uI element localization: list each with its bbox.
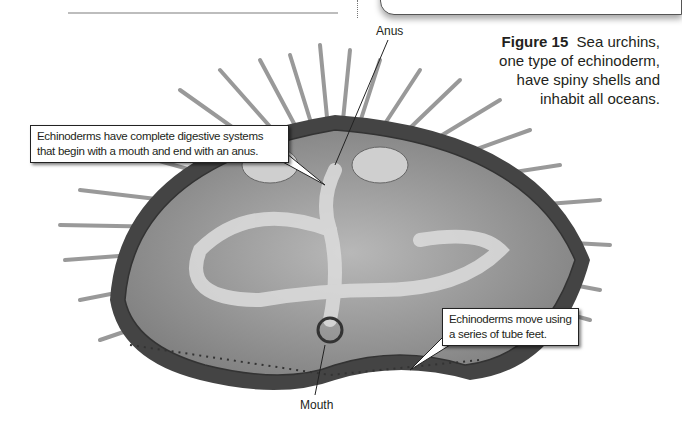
callout-digestive-system: Echinoderms have complete digestive syst…	[30, 125, 289, 163]
anus-label: Anus	[376, 24, 403, 38]
callout-tube-feet: Echinoderms move using a series of tube …	[442, 308, 579, 346]
mouth-label: Mouth	[300, 398, 333, 412]
figure-caption: Figure 15 Sea urchins, one type of echin…	[470, 32, 660, 108]
figure-label: Figure 15	[502, 33, 569, 50]
